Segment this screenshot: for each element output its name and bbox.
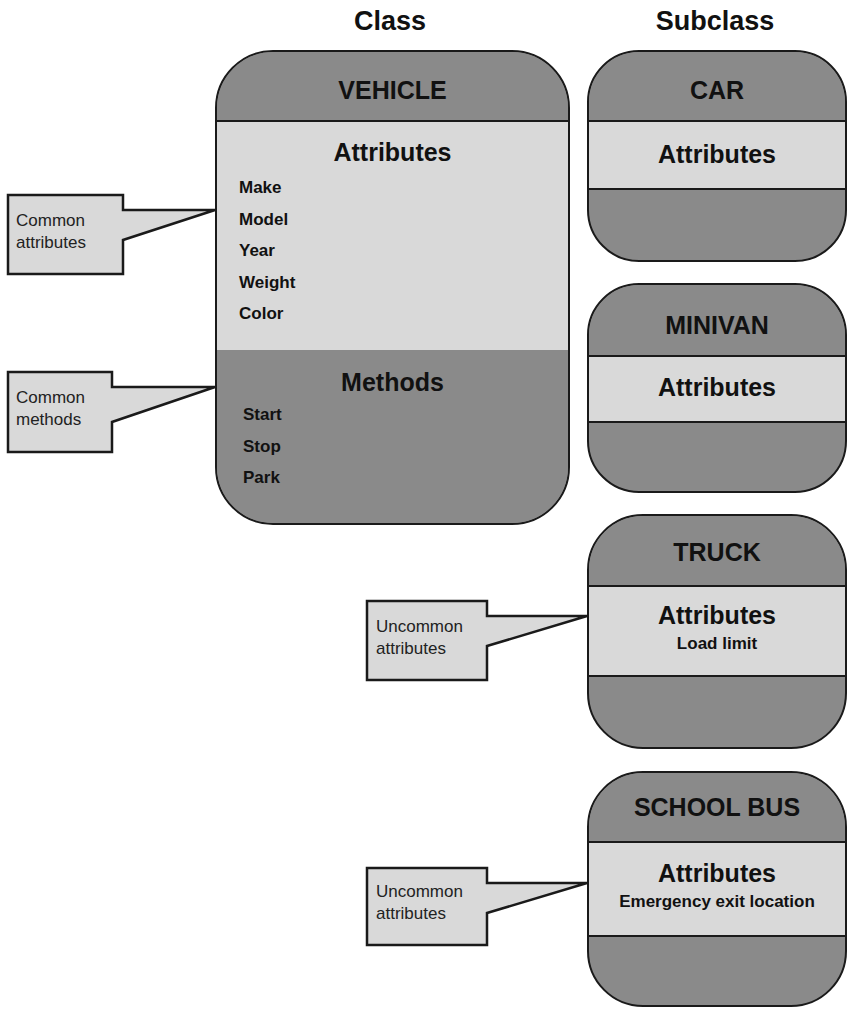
callout-line1: Common bbox=[16, 387, 85, 409]
minivan-attributes-section: Attributes bbox=[589, 355, 845, 423]
school-bus-attributes-section: Attributes Emergency exit location bbox=[589, 841, 845, 937]
car-attributes-section: Attributes bbox=[589, 120, 845, 190]
truck-attributes-section: Attributes Load limit bbox=[589, 585, 845, 677]
car-attributes-title: Attributes bbox=[589, 122, 845, 169]
vehicle-attributes-section: Attributes Make Model Year Weight Color bbox=[217, 120, 568, 352]
school-bus-header: SCHOOL BUS bbox=[589, 773, 845, 843]
vehicle-class-box: VEHICLE Attributes Make Model Year Weigh… bbox=[215, 50, 570, 525]
school-bus-title: SCHOOL BUS bbox=[589, 773, 845, 822]
attribute-model: Model bbox=[239, 210, 288, 230]
minivan-header: MINIVAN bbox=[589, 285, 845, 357]
callout-line2: attributes bbox=[376, 638, 463, 660]
attribute-load-limit: Load limit bbox=[589, 634, 845, 654]
attribute-year: Year bbox=[239, 241, 275, 261]
vehicle-title: VEHICLE bbox=[217, 52, 568, 105]
school-bus-subclass-box: SCHOOL BUS Attributes Emergency exit loc… bbox=[587, 771, 847, 1007]
callout-common-methods: Common methods bbox=[16, 387, 85, 431]
car-subclass-box: CAR Attributes bbox=[587, 50, 847, 262]
subclass-heading: Subclass bbox=[600, 6, 830, 37]
vehicle-attributes-title: Attributes bbox=[217, 122, 568, 167]
method-start: Start bbox=[243, 405, 282, 425]
minivan-attributes-title: Attributes bbox=[589, 357, 845, 402]
callout-line1: Uncommon bbox=[376, 881, 463, 903]
vehicle-methods-section: Methods Start Stop Park bbox=[217, 350, 568, 523]
truck-title: TRUCK bbox=[589, 516, 845, 567]
callout-line2: attributes bbox=[376, 903, 463, 925]
attribute-color: Color bbox=[239, 304, 283, 324]
minivan-title: MINIVAN bbox=[589, 285, 845, 340]
vehicle-header: VEHICLE bbox=[217, 52, 568, 121]
callout-line1: Uncommon bbox=[376, 616, 463, 638]
callout-line2: methods bbox=[16, 409, 85, 431]
school-bus-attributes-title: Attributes bbox=[589, 843, 845, 888]
car-header: CAR bbox=[589, 52, 845, 122]
callout-line1: Common bbox=[16, 210, 86, 232]
attribute-emergency-exit-location: Emergency exit location bbox=[589, 892, 845, 912]
callout-uncommon-attributes-bus: Uncommon attributes bbox=[376, 881, 463, 925]
truck-header: TRUCK bbox=[589, 516, 845, 587]
truck-subclass-box: TRUCK Attributes Load limit bbox=[587, 514, 847, 749]
truck-attributes-title: Attributes bbox=[589, 587, 845, 630]
attribute-make: Make bbox=[239, 178, 282, 198]
callout-common-attributes: Common attributes bbox=[16, 210, 86, 254]
method-stop: Stop bbox=[243, 437, 281, 457]
method-park: Park bbox=[243, 468, 280, 488]
callout-line2: attributes bbox=[16, 232, 86, 254]
car-title: CAR bbox=[589, 52, 845, 105]
class-heading: Class bbox=[300, 6, 480, 37]
attribute-weight: Weight bbox=[239, 273, 295, 293]
vehicle-methods-title: Methods bbox=[217, 350, 568, 397]
minivan-subclass-box: MINIVAN Attributes bbox=[587, 283, 847, 493]
callout-uncommon-attributes-truck: Uncommon attributes bbox=[376, 616, 463, 660]
